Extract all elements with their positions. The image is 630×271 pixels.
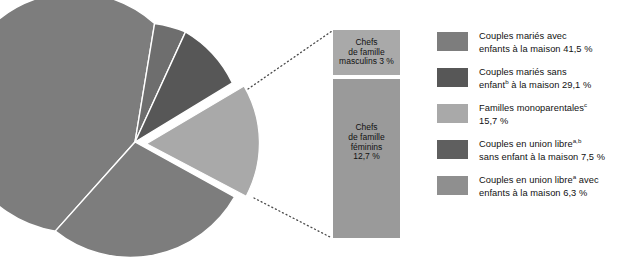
legend-label-line2-pre: enfant	[479, 80, 505, 90]
legend-label-line1: Couples mariés avec	[479, 31, 567, 41]
legend-label-line1-pre: Familles monoparentales	[479, 103, 584, 113]
callout-masculins-line3: masculins 3 %	[339, 56, 394, 66]
legend-label-line1-pre: Couples en union libre	[479, 175, 573, 185]
legend-item-label: Familles monoparentalesc 15,7 %	[479, 102, 587, 129]
legend-item-couples-maries-sans-enfant[interactable]: Couples mariés sans enfantb à la maison …	[437, 66, 627, 93]
breakout-callout-box: Chefs de famille masculins 3 % Chefs de …	[333, 30, 400, 238]
legend-label-line2: enfants à la maison 6,3 %	[479, 188, 587, 198]
callout-masculins-line1: Chefs	[355, 37, 377, 47]
legend-item-familles-monoparentales[interactable]: Familles monoparentalesc 15,7 %	[437, 102, 627, 129]
legend-item-label: Couples mariés sans enfantb à la maison …	[479, 66, 591, 93]
callout-segment-chefs-feminins[interactable]: Chefs de famille féminins 12,7 %	[333, 79, 400, 238]
callout-feminins-line3: féminins	[351, 142, 383, 152]
legend-item-union-libre-avec-enfants[interactable]: Couples en union librea avec enfants à l…	[437, 174, 627, 201]
legend-label-line1-pre: Couples en union libre	[479, 139, 573, 149]
legend-item-label: Couples en union librea,b sans enfant à …	[479, 138, 605, 165]
legend-label-line1: Couples mariés sans	[479, 67, 567, 77]
callout-feminins-line2: de famille	[348, 132, 384, 142]
legend-footnote-marker: a,b	[573, 137, 582, 144]
callout-feminins-line4: 12,7 %	[353, 151, 379, 161]
callout-segment-chefs-masculins[interactable]: Chefs de famille masculins 3 %	[333, 30, 400, 77]
legend-swatch-icon	[437, 32, 468, 51]
legend-swatch-icon	[437, 176, 468, 195]
legend-footnote-marker: c	[584, 101, 587, 108]
legend-label-line2: 15,7 %	[479, 116, 508, 126]
chart-legend: Couples mariés avec enfants à la maison …	[437, 30, 627, 210]
legend-swatch-icon	[437, 68, 468, 87]
legend-label-line2: sans enfant à la maison 7,5 %	[479, 152, 605, 162]
legend-swatch-icon	[437, 104, 468, 123]
legend-swatch-icon	[437, 140, 468, 159]
legend-label-line1-post: avec	[576, 175, 598, 185]
legend-item-label: Couples en union librea avec enfants à l…	[479, 174, 599, 201]
legend-label-line2: enfants à la maison 41,5 %	[479, 44, 592, 54]
legend-item-label: Couples mariés avec enfants à la maison …	[479, 30, 592, 57]
legend-item-union-libre-sans-enfant[interactable]: Couples en union librea,b sans enfant à …	[437, 138, 627, 165]
callout-feminins-line1: Chefs	[355, 122, 377, 132]
pie-chart	[0, 0, 320, 271]
pie-svg	[0, 0, 320, 271]
pie-chart-figure: Chefs de famille masculins 3 % Chefs de …	[0, 0, 630, 271]
legend-label-line2-post: à la maison 29,1 %	[509, 80, 592, 90]
callout-masculins-line2: de famille	[348, 47, 384, 57]
legend-item-couples-maries-avec-enfants[interactable]: Couples mariés avec enfants à la maison …	[437, 30, 627, 57]
